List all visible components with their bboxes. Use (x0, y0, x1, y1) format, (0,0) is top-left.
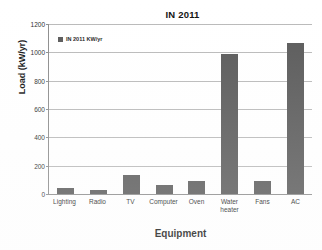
x-axis-tick-labels: LightingRadioTVComputerOvenWater heaterF… (48, 196, 312, 226)
bar-slot-water-heater (213, 24, 246, 194)
bar-slot-ac (279, 24, 312, 194)
x-tick-label-ac: AC (279, 196, 312, 226)
bar-slot-tv (115, 24, 148, 194)
x-tick-label-water-heater: Water heater (213, 196, 246, 226)
bar-computer[interactable] (156, 185, 173, 194)
plot-area: 020040060080010001200 (48, 24, 312, 194)
y-tick-label-1000: 1000 (31, 49, 45, 56)
bar-slot-fans (246, 24, 279, 194)
legend-swatch-icon (58, 37, 63, 42)
bars-layer (49, 24, 312, 194)
bar-slot-lighting (49, 24, 82, 194)
y-tick-mark-0 (46, 194, 49, 195)
chart-title: IN 2011 (55, 9, 310, 20)
bar-slot-radio (82, 24, 115, 194)
bar-fans[interactable] (254, 181, 271, 194)
legend-label: IN 2011 KW/yr (66, 36, 102, 42)
bar-ac[interactable] (287, 43, 304, 194)
bar-tv[interactable] (123, 175, 140, 194)
bar-radio[interactable] (90, 190, 107, 194)
x-tick-label-radio: Radio (81, 196, 114, 226)
bar-slot-oven (181, 24, 214, 194)
bar-chart-figure: IN 2011 Load (kW/yr) 0200400600800100012… (0, 0, 322, 250)
bar-oven[interactable] (188, 181, 205, 194)
x-tick-label-lighting: Lighting (48, 196, 81, 226)
y-tick-label-200: 200 (34, 162, 45, 169)
bar-lighting[interactable] (57, 188, 74, 194)
x-tick-label-tv: TV (114, 196, 147, 226)
x-tick-label-oven: Oven (180, 196, 213, 226)
bar-water-heater[interactable] (221, 54, 238, 194)
x-tick-label-fans: Fans (246, 196, 279, 226)
y-tick-label-800: 800 (34, 77, 45, 84)
gridline-0 (49, 194, 312, 195)
x-axis-title: Equipment (48, 228, 313, 239)
chart-legend: IN 2011 KW/yr (58, 36, 102, 42)
y-axis-title: Load (kW/yr) (17, 22, 27, 112)
y-tick-label-600: 600 (34, 106, 45, 113)
y-tick-label-400: 400 (34, 134, 45, 141)
y-tick-label-1200: 1200 (31, 21, 45, 28)
y-tick-label-0: 0 (41, 191, 45, 198)
bar-slot-computer (148, 24, 181, 194)
x-tick-label-computer: Computer (147, 196, 180, 226)
